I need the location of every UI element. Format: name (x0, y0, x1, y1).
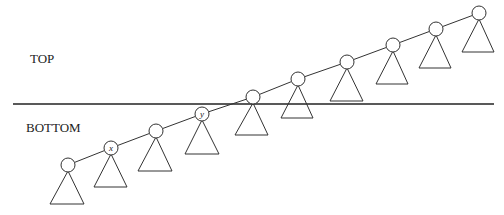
subtree-triangle (281, 85, 313, 118)
node-circle (386, 38, 400, 52)
node-circle (472, 6, 486, 20)
spine-edge (259, 82, 291, 95)
spine-edge (75, 151, 105, 163)
node (50, 158, 84, 204)
top-label: TOP (30, 51, 54, 66)
bottom-label: BOTTOM (26, 120, 81, 135)
spine-edge (443, 15, 473, 26)
subtree-triangle (138, 137, 172, 171)
subtree-triangle (235, 103, 268, 135)
node (281, 72, 313, 118)
tree-spine-diagram: xy TOP BOTTOM (0, 0, 504, 215)
node-label: x (108, 143, 113, 153)
subtree-triangle (185, 120, 219, 154)
subtree-triangle (376, 51, 408, 84)
node-circle (149, 124, 163, 138)
node (376, 38, 408, 84)
node (138, 124, 172, 171)
subtree-triangle (462, 19, 494, 52)
node-circle (246, 90, 260, 104)
node (235, 90, 268, 135)
node-circle (429, 22, 443, 36)
spine-edge (118, 133, 150, 145)
node-y: y (185, 107, 219, 154)
spine-edge (209, 99, 247, 112)
subtree-triangle (419, 35, 451, 68)
spine-edges (75, 15, 473, 162)
subtrees: xy (50, 6, 494, 204)
node (419, 22, 451, 68)
node-label: y (199, 109, 204, 119)
subtree-triangle (330, 68, 363, 101)
node (462, 6, 494, 52)
node-circle (61, 158, 75, 172)
spine-edge (400, 31, 430, 42)
node-circle (340, 55, 354, 69)
spine-edge (354, 47, 387, 59)
subtree-triangle (94, 154, 127, 187)
spine-edge (305, 64, 341, 76)
node-x: x (94, 141, 127, 187)
spine-edge (163, 116, 196, 128)
subtree-triangle (50, 171, 84, 204)
node (330, 55, 363, 101)
node-circle (291, 72, 305, 86)
